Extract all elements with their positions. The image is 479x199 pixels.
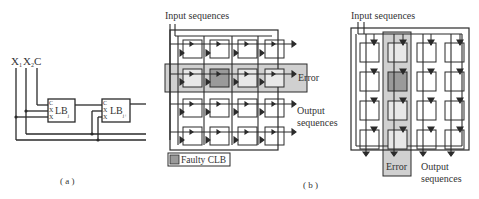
diagram-canvas: X1 X2 C C X X LBj C X X LBj+ [0, 0, 479, 199]
output-label-right-line2: sequences [421, 173, 462, 184]
output-label-right-line1: Output [421, 161, 449, 172]
input-x2-label: X2 [23, 55, 34, 68]
legend-faulty-label: Faulty CLB [181, 155, 226, 165]
faulty-clb [210, 69, 229, 87]
block2-label: LBj+ [110, 105, 127, 118]
svg-text:X: X [49, 107, 54, 113]
error-label: Error [298, 72, 320, 83]
error-label-right: Error [386, 161, 408, 172]
caption-a: ( a ) [60, 176, 75, 186]
input-sequences-label-right: Input sequences [351, 10, 415, 21]
input-x1-label: X1 [11, 55, 22, 68]
faulty-clb-right [388, 72, 407, 91]
panel-a: X1 X2 C C X X LBj C X X LBj+ [11, 55, 146, 186]
panel-b-right: Input sequences Error [351, 10, 469, 184]
svg-text:X: X [49, 114, 54, 120]
caption-b: ( b ) [303, 180, 318, 190]
clb-grid-right [360, 43, 464, 149]
block1-label: LBj [55, 105, 69, 118]
input-c-label: C [34, 55, 41, 67]
input-sequences-label: Input sequences [165, 10, 229, 21]
output-label-line2: sequences [297, 117, 338, 128]
panel-b-left: Input sequences Error [165, 10, 338, 166]
svg-text:C: C [49, 100, 53, 106]
legend-faulty-swatch [170, 155, 179, 164]
output-label-line1: Output [297, 105, 325, 116]
svg-text:C: C [103, 100, 107, 106]
svg-text:X: X [103, 114, 108, 120]
svg-text:X: X [103, 107, 108, 113]
